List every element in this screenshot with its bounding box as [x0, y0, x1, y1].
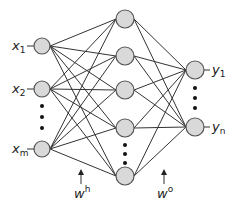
- output-weights-arrow: [161, 169, 167, 184]
- input-ellipsis-dot: [40, 126, 44, 130]
- neural-network-diagram: x1 x2 xm y1 yn wh wo: [0, 0, 234, 208]
- output-ellipsis-dot: [193, 86, 197, 90]
- arrow-head-icon: [161, 169, 167, 175]
- hidden-ellipsis-dot: [123, 152, 127, 156]
- hidden-ellipsis-dot: [123, 161, 127, 165]
- input-label-x2: x2: [11, 81, 25, 98]
- input-node-xm: [34, 141, 50, 157]
- hidden-node-1: [116, 10, 134, 28]
- hidden-node-5: [116, 167, 134, 185]
- output-weights-label: wo: [157, 184, 174, 201]
- input-layer: [34, 38, 50, 157]
- hidden-node-2: [116, 47, 134, 65]
- input-node-x1: [34, 38, 50, 54]
- arrow-head-icon: [78, 169, 84, 175]
- output-label-y1: y1: [211, 62, 225, 79]
- hidden-output-edges: [134, 19, 186, 176]
- input-label-xm: xm: [11, 141, 28, 158]
- output-ellipsis-dot: [193, 106, 197, 110]
- input-node-x2: [34, 81, 50, 97]
- output-node-y1: [186, 61, 204, 79]
- input-ellipsis-dot: [40, 104, 44, 108]
- hidden-weights-label: wh: [74, 184, 90, 201]
- input-ellipsis-dot: [40, 115, 44, 119]
- output-layer: [186, 61, 204, 136]
- input-hidden-edges: [50, 19, 116, 176]
- hidden-node-4: [116, 119, 134, 137]
- hidden-node-3: [116, 81, 134, 99]
- output-label-yn: yn: [211, 119, 225, 136]
- output-node-yn: [186, 118, 204, 136]
- input-label-x1: x1: [11, 38, 25, 55]
- output-ellipsis-dot: [193, 96, 197, 100]
- hidden-layer: [116, 10, 134, 185]
- hidden-weights-arrow: [78, 169, 84, 184]
- hidden-ellipsis-dot: [123, 143, 127, 147]
